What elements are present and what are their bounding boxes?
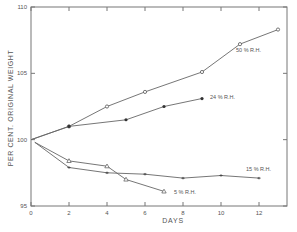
point-marker xyxy=(143,90,146,93)
point-marker xyxy=(276,28,279,31)
point-marker xyxy=(219,174,222,176)
point-marker xyxy=(200,97,203,100)
y-tick-label: 100 xyxy=(17,137,28,143)
series-24-r-h: 24 % R.H. xyxy=(31,94,236,140)
x-tick-label: 2 xyxy=(67,210,71,216)
point-marker xyxy=(181,177,184,179)
x-tick-label: 4 xyxy=(105,210,109,216)
point-marker xyxy=(257,177,260,179)
series-line xyxy=(31,99,202,140)
y-tick-label: 95 xyxy=(20,203,27,209)
series-label: 50 % R.H. xyxy=(236,47,262,53)
series-5-r-h: 5 % R.H. xyxy=(35,142,197,195)
series-label: 24 % R.H. xyxy=(210,94,236,100)
x-tick-label: 8 xyxy=(181,210,185,216)
x-tick-label: 0 xyxy=(29,210,33,216)
point-marker xyxy=(67,159,71,163)
x-tick-label: 6 xyxy=(143,210,147,216)
point-marker xyxy=(105,172,108,174)
x-tick-label: 12 xyxy=(256,210,263,216)
point-marker xyxy=(143,173,146,175)
series-label: 15 % R.H. xyxy=(246,166,272,172)
series-50-r-h: 50 % R.H. xyxy=(31,28,280,140)
point-marker xyxy=(67,125,70,128)
point-marker xyxy=(105,105,108,108)
point-marker xyxy=(124,118,127,121)
y-tick-label: 110 xyxy=(17,4,27,10)
x-tick-label: 10 xyxy=(218,210,225,216)
axes: 02468101295100105110 xyxy=(17,4,287,216)
point-marker xyxy=(200,70,203,73)
point-marker xyxy=(124,177,128,181)
x-axis-label: DAYS xyxy=(162,217,184,224)
point-marker xyxy=(238,43,241,46)
chart: 02468101295100105110 50 % R.H.24 % R.H.1… xyxy=(0,0,297,232)
series-group: 50 % R.H.24 % R.H.15 % R.H.5 % R.H. xyxy=(31,28,280,195)
series-line xyxy=(35,142,164,191)
y-tick-label: 105 xyxy=(17,70,28,76)
series-label: 5 % R.H. xyxy=(174,189,196,195)
plot-frame xyxy=(31,7,287,206)
point-marker xyxy=(162,105,165,108)
y-axis-label: PER CENT. ORIGINAL WEIGHT xyxy=(7,50,14,167)
